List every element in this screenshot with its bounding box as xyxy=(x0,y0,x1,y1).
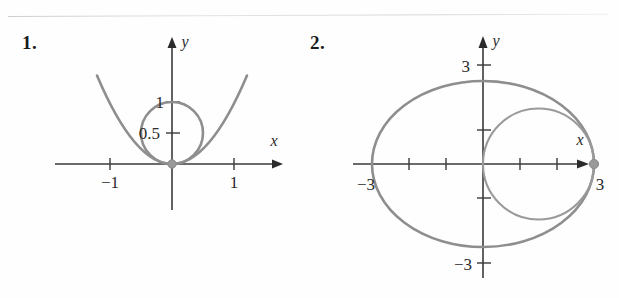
figure-2-ytick-label--3: −3 xyxy=(454,255,472,274)
figure-2: 2. −3 xyxy=(300,0,619,298)
figure-2-plot: −3 3 3 −3 x y xyxy=(300,0,619,298)
figure-2-x-axis-label: x xyxy=(575,131,583,148)
scanned-page: 1. −1 1 0.5 1 xyxy=(0,0,619,298)
figure-2-y-axis-label: y xyxy=(490,32,500,50)
figure-2-ytick-label-3: 3 xyxy=(462,57,471,76)
figure-1-x-axis-arrow xyxy=(272,160,283,169)
figure-1-y-axis-label: y xyxy=(179,33,189,51)
figure-1: 1. −1 1 0.5 1 xyxy=(0,0,300,298)
figure-1-ytick-label-1: 1 xyxy=(156,93,165,112)
figure-1-plot: −1 1 0.5 1 x y xyxy=(0,0,300,298)
figure-2-xtick-label-3: 3 xyxy=(596,175,605,194)
figure-1-y-axis-arrow xyxy=(168,37,177,48)
figure-2-y-axis-arrow xyxy=(479,36,488,48)
figure-1-tangency-dot xyxy=(168,160,176,168)
figure-2-x-axis-arrow xyxy=(577,160,589,169)
figure-2-tangency-dot xyxy=(589,159,598,168)
figure-1-ytick-label-0.5: 0.5 xyxy=(139,124,160,143)
figure-1-xtick-label-1: 1 xyxy=(230,173,239,192)
figure-2-xtick-label--3: −3 xyxy=(357,175,375,194)
figure-1-xtick-label--1: −1 xyxy=(101,173,119,192)
figure-1-x-axis-label: x xyxy=(269,132,277,149)
